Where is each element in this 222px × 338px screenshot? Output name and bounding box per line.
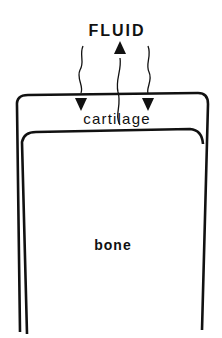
- bone-label: bone: [94, 237, 131, 253]
- cartilage-bone-boundary: [22, 129, 203, 334]
- arrow-down-right-icon: [142, 46, 154, 111]
- diagram-canvas: FLUID cartilage bone: [0, 0, 222, 338]
- cartilage-label: cartilage: [83, 110, 151, 127]
- arrow-down-left-icon: [75, 46, 87, 111]
- fluid-label: FLUID: [88, 22, 145, 39]
